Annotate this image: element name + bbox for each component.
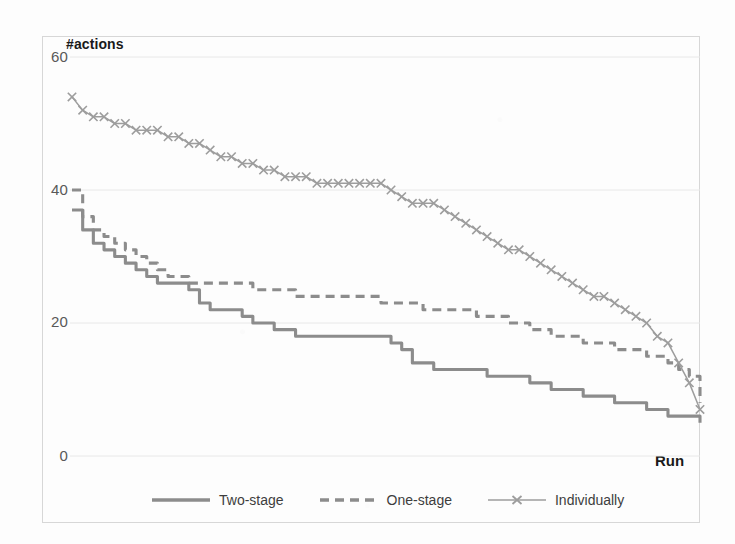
series-one-stage — [72, 190, 700, 403]
marker-x-icon — [398, 192, 406, 200]
series-individually — [68, 93, 704, 414]
marker-x-icon — [78, 106, 86, 114]
series-line-1 — [72, 190, 700, 403]
legend-label-one-stage: One-stage — [387, 492, 452, 508]
chart-legend: Two-stage One-stage Individually — [150, 492, 624, 508]
data-series-group — [68, 93, 704, 423]
marker-x-icon — [440, 206, 448, 214]
marker-x-icon — [547, 266, 555, 274]
marker-x-icon — [483, 232, 491, 240]
marker-x-icon — [206, 146, 214, 154]
chart-plot-svg — [0, 0, 735, 544]
marker-x-icon — [494, 239, 502, 247]
marker-x-icon — [462, 219, 470, 227]
series-line-2 — [72, 97, 700, 410]
series-line-0 — [72, 210, 700, 423]
marker-x-icon — [558, 272, 566, 280]
legend-entry-one-stage: One-stage — [318, 492, 452, 508]
series-two-stage — [72, 210, 700, 423]
marker-x-icon — [526, 252, 534, 260]
dashed-line-swatch-icon — [318, 493, 380, 507]
marker-x-icon — [653, 332, 661, 340]
marker-x-icon — [696, 405, 704, 413]
legend-entry-individually: Individually — [486, 492, 624, 508]
marker-x-icon — [685, 379, 693, 387]
marker-x-icon — [472, 226, 480, 234]
legend-label-individually: Individually — [555, 492, 624, 508]
marker-x-icon — [664, 339, 672, 347]
marker-x-icon — [68, 93, 76, 101]
legend-label-two-stage: Two-stage — [219, 492, 284, 508]
marker-x-icon — [610, 299, 618, 307]
legend-entry-two-stage: Two-stage — [150, 492, 284, 508]
marker-x-icon — [621, 306, 629, 314]
series-markers-2 — [68, 93, 704, 414]
marker-x-icon — [632, 312, 640, 320]
marker-x-icon — [451, 212, 459, 220]
marker-x-icon — [579, 286, 587, 294]
line-with-x-marker-swatch-icon — [486, 493, 548, 507]
chart-container: 60 40 20 0 #actions Run Two-stage One-st… — [0, 0, 735, 544]
marker-x-icon — [536, 259, 544, 267]
solid-line-swatch-icon — [150, 493, 212, 507]
marker-x-icon — [568, 279, 576, 287]
